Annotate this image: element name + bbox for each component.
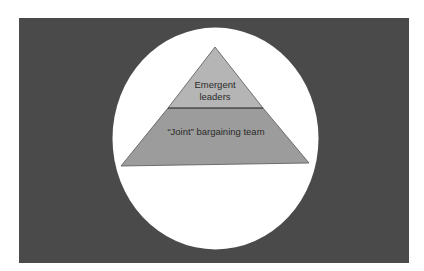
top-tier-label-line2: leaders — [199, 91, 230, 102]
bottom-tier-label: “Joint” bargaining team — [167, 126, 264, 137]
top-tier-label-line1: Emergent — [194, 79, 236, 90]
pyramid-diagram: Emergent leaders “Joint” bargaining team — [0, 0, 424, 271]
